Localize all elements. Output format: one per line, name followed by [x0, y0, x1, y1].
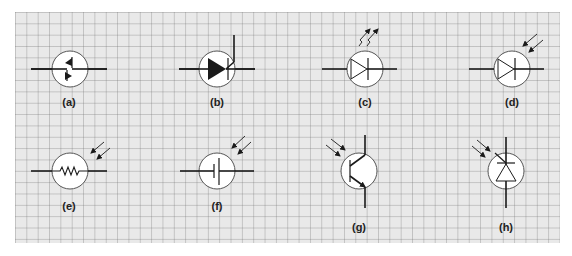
- label-g: (g): [352, 221, 366, 233]
- label-d: (d): [505, 96, 519, 108]
- label-a: (a): [62, 96, 75, 108]
- symbol-c-led-icon: [322, 29, 397, 87]
- symbol-d-photodiode-icon: [469, 34, 544, 87]
- symbols-canvas: [0, 0, 572, 256]
- symbol-a-bidirectional-diode-icon: [31, 51, 107, 87]
- symbol-h-light-activated-diode-icon: [472, 137, 524, 208]
- label-b: (b): [210, 96, 224, 108]
- label-c: (c): [358, 96, 371, 108]
- symbol-g-phototransistor-icon: [326, 135, 377, 208]
- symbol-b-thyristor-icon: [179, 35, 255, 87]
- label-e: (e): [62, 200, 75, 212]
- label-h: (h): [499, 221, 513, 233]
- label-f: (f): [212, 200, 223, 212]
- symbol-f-photocell-icon: [180, 136, 254, 189]
- symbol-e-photoresistor-icon: [31, 142, 110, 189]
